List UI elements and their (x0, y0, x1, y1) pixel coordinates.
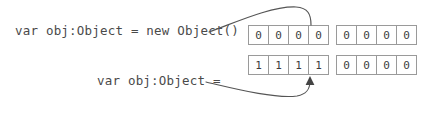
memory-row-a-bottom: 1 1 1 1 (248, 55, 329, 75)
memory-cell: 0 (248, 25, 269, 45)
memory-cell: 0 (288, 25, 309, 45)
memory-cell: 1 (248, 55, 269, 75)
memory-group-b: 0 0 0 0 0 0 0 0 (336, 25, 417, 75)
memory-row-a-top: 0 0 0 0 (248, 25, 329, 45)
memory-cell: 1 (268, 55, 289, 75)
memory-row-b-top: 0 0 0 0 (336, 25, 417, 45)
memory-cell: 0 (356, 55, 377, 75)
memory-cell: 0 (308, 25, 329, 45)
bottom-connector-arrowhead (306, 76, 315, 85)
bottom-connector-path (206, 81, 310, 97)
memory-cell: 1 (308, 55, 329, 75)
code-label-top: var obj:Object = new Object() (15, 25, 239, 38)
row-gap (336, 45, 417, 55)
memory-cell: 0 (268, 25, 289, 45)
row-gap (248, 45, 329, 55)
memory-cell: 0 (356, 25, 377, 45)
memory-cell: 0 (396, 25, 417, 45)
memory-diagram: var obj:Object = new Object() var obj:Ob… (0, 0, 436, 116)
code-label-bottom: var obj:Object = (97, 75, 221, 88)
memory-group-a: 0 0 0 0 1 1 1 1 (248, 25, 329, 75)
memory-cell: 1 (288, 55, 309, 75)
memory-cell: 0 (336, 55, 357, 75)
memory-cell: 0 (376, 25, 397, 45)
memory-cell: 0 (336, 25, 357, 45)
memory-row-b-bottom: 0 0 0 0 (336, 55, 417, 75)
memory-cell: 0 (396, 55, 417, 75)
memory-cell: 0 (376, 55, 397, 75)
